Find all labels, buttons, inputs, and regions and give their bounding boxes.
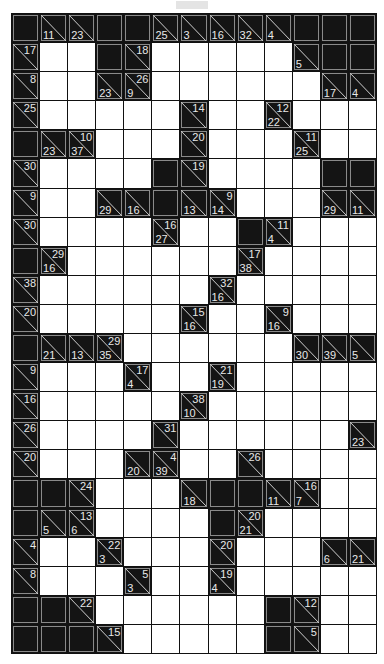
entry-cell[interactable]	[40, 567, 67, 595]
entry-cell[interactable]	[152, 479, 179, 507]
entry-cell[interactable]	[68, 450, 95, 478]
entry-cell[interactable]	[180, 363, 207, 391]
entry-cell[interactable]	[293, 276, 320, 304]
entry-cell[interactable]	[209, 450, 236, 478]
entry-cell[interactable]	[152, 567, 179, 595]
entry-cell[interactable]	[96, 567, 123, 595]
entry-cell[interactable]	[40, 363, 67, 391]
entry-cell[interactable]	[124, 305, 151, 333]
entry-cell[interactable]	[293, 567, 320, 595]
entry-cell[interactable]	[293, 159, 320, 187]
entry-cell[interactable]	[237, 276, 264, 304]
entry-cell[interactable]	[180, 509, 207, 537]
entry-cell[interactable]	[209, 392, 236, 420]
entry-cell[interactable]	[321, 479, 348, 507]
entry-cell[interactable]	[152, 305, 179, 333]
entry-cell[interactable]	[96, 421, 123, 449]
entry-cell[interactable]	[265, 72, 292, 100]
entry-cell[interactable]	[124, 392, 151, 420]
entry-cell[interactable]	[265, 567, 292, 595]
entry-cell[interactable]	[96, 247, 123, 275]
entry-cell[interactable]	[321, 567, 348, 595]
entry-cell[interactable]	[349, 392, 376, 420]
entry-cell[interactable]	[265, 247, 292, 275]
entry-cell[interactable]	[68, 421, 95, 449]
entry-cell[interactable]	[237, 625, 264, 653]
entry-cell[interactable]	[349, 218, 376, 246]
entry-cell[interactable]	[293, 509, 320, 537]
entry-cell[interactable]	[40, 276, 67, 304]
entry-cell[interactable]	[209, 305, 236, 333]
entry-cell[interactable]	[265, 363, 292, 391]
entry-cell[interactable]	[349, 101, 376, 129]
entry-cell[interactable]	[180, 596, 207, 624]
entry-cell[interactable]	[68, 247, 95, 275]
entry-cell[interactable]	[40, 159, 67, 187]
entry-cell[interactable]	[96, 218, 123, 246]
entry-cell[interactable]	[124, 101, 151, 129]
entry-cell[interactable]	[321, 596, 348, 624]
entry-cell[interactable]	[96, 159, 123, 187]
entry-cell[interactable]	[180, 276, 207, 304]
entry-cell[interactable]	[209, 247, 236, 275]
entry-cell[interactable]	[293, 450, 320, 478]
entry-cell[interactable]	[209, 625, 236, 653]
entry-cell[interactable]	[68, 276, 95, 304]
entry-cell[interactable]	[152, 625, 179, 653]
entry-cell[interactable]	[237, 43, 264, 71]
entry-cell[interactable]	[209, 101, 236, 129]
entry-cell[interactable]	[40, 43, 67, 71]
entry-cell[interactable]	[68, 363, 95, 391]
entry-cell[interactable]	[180, 625, 207, 653]
entry-cell[interactable]	[265, 509, 292, 537]
entry-cell[interactable]	[321, 130, 348, 158]
entry-cell[interactable]	[209, 218, 236, 246]
entry-cell[interactable]	[96, 101, 123, 129]
entry-cell[interactable]	[265, 189, 292, 217]
entry-cell[interactable]	[68, 189, 95, 217]
entry-cell[interactable]	[237, 421, 264, 449]
entry-cell[interactable]	[124, 538, 151, 566]
entry-cell[interactable]	[124, 334, 151, 362]
entry-cell[interactable]	[321, 363, 348, 391]
entry-cell[interactable]	[180, 538, 207, 566]
entry-cell[interactable]	[293, 101, 320, 129]
entry-cell[interactable]	[237, 538, 264, 566]
entry-cell[interactable]	[293, 392, 320, 420]
entry-cell[interactable]	[321, 276, 348, 304]
entry-cell[interactable]	[68, 159, 95, 187]
entry-cell[interactable]	[209, 421, 236, 449]
entry-cell[interactable]	[209, 596, 236, 624]
entry-cell[interactable]	[124, 625, 151, 653]
entry-cell[interactable]	[124, 218, 151, 246]
entry-cell[interactable]	[152, 276, 179, 304]
entry-cell[interactable]	[237, 72, 264, 100]
entry-cell[interactable]	[237, 305, 264, 333]
entry-cell[interactable]	[40, 305, 67, 333]
entry-cell[interactable]	[68, 567, 95, 595]
entry-cell[interactable]	[152, 43, 179, 71]
entry-cell[interactable]	[237, 101, 264, 129]
entry-cell[interactable]	[96, 392, 123, 420]
entry-cell[interactable]	[293, 305, 320, 333]
entry-cell[interactable]	[321, 392, 348, 420]
entry-cell[interactable]	[265, 130, 292, 158]
entry-cell[interactable]	[124, 479, 151, 507]
entry-cell[interactable]	[124, 247, 151, 275]
entry-cell[interactable]	[68, 538, 95, 566]
entry-cell[interactable]	[237, 334, 264, 362]
entry-cell[interactable]	[293, 189, 320, 217]
entry-cell[interactable]	[68, 392, 95, 420]
entry-cell[interactable]	[349, 567, 376, 595]
entry-cell[interactable]	[152, 509, 179, 537]
entry-cell[interactable]	[237, 363, 264, 391]
entry-cell[interactable]	[265, 421, 292, 449]
entry-cell[interactable]	[321, 625, 348, 653]
entry-cell[interactable]	[40, 538, 67, 566]
entry-cell[interactable]	[68, 43, 95, 71]
entry-cell[interactable]	[209, 72, 236, 100]
entry-cell[interactable]	[209, 334, 236, 362]
entry-cell[interactable]	[265, 276, 292, 304]
entry-cell[interactable]	[349, 130, 376, 158]
entry-cell[interactable]	[180, 72, 207, 100]
